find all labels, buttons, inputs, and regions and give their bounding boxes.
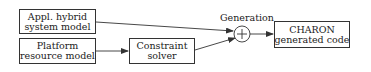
platform-resource-model-box: Platform resource model	[19, 38, 96, 64]
hybrid-model-line2: system model	[24, 22, 90, 32]
hybrid-model-line1: Appl. hybrid	[28, 12, 87, 22]
edge-hybrid-to-generation	[96, 22, 233, 31]
charon-generated-code-box: CHARON generated code	[274, 21, 350, 48]
edge-solver-to-generation	[195, 38, 235, 50]
charon-line2: generated code	[275, 35, 350, 45]
constraint-solver-line2: solver	[147, 51, 176, 61]
platform-model-line2: resource model	[20, 51, 95, 61]
hybrid-system-model-box: Appl. hybrid system model	[19, 9, 96, 34]
charon-line1: CHARON	[289, 25, 335, 35]
constraint-solver-box: Constraint solver	[129, 38, 195, 64]
generation-label: Generation	[220, 12, 274, 23]
